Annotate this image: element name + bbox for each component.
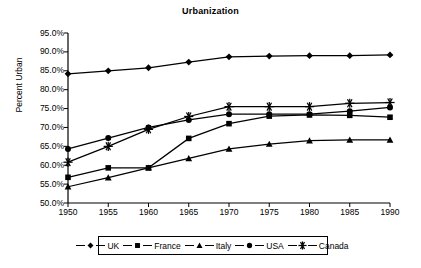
series-canada	[63, 98, 394, 167]
legend-item-uk[interactable]: UK	[76, 241, 120, 251]
legend-label: USA	[265, 241, 284, 251]
legend-line-segment	[143, 245, 152, 246]
legend-label: Canada	[318, 241, 350, 251]
legend-line-segment	[205, 245, 214, 246]
legend-label: Italy	[215, 241, 233, 251]
legend-marker-square-icon	[133, 241, 142, 250]
legend-item-usa[interactable]: USA	[235, 241, 284, 251]
legend-line-segment	[308, 245, 317, 246]
legend-marker-asterisk-icon	[298, 241, 307, 250]
series-uk	[65, 52, 394, 78]
legend-marker-circle-icon	[245, 241, 254, 250]
legend-marker-triangle-icon	[195, 241, 204, 250]
legend-line-segment	[185, 245, 194, 246]
legend-item-canada[interactable]: Canada	[288, 241, 350, 251]
legend-item-france[interactable]: France	[123, 241, 181, 251]
legend-item-italy[interactable]: Italy	[185, 241, 233, 251]
legend-line-segment	[123, 245, 132, 246]
legend-line-segment	[76, 245, 85, 246]
legend-marker-diamond-icon	[86, 241, 95, 250]
legend-label: UK	[106, 241, 120, 251]
legend-line-segment	[255, 245, 264, 246]
urbanization-line-chart: Urbanization Percent Urban 50.0%55.0%60.…	[0, 0, 421, 268]
series-usa	[65, 104, 393, 152]
legend-line-segment	[96, 245, 105, 246]
legend-label: France	[153, 241, 181, 251]
legend-line-segment	[288, 245, 297, 246]
chart-legend: UKFranceItalyUSACanada	[98, 236, 328, 255]
legend-line-segment	[235, 245, 244, 246]
plot-area	[0, 0, 421, 268]
